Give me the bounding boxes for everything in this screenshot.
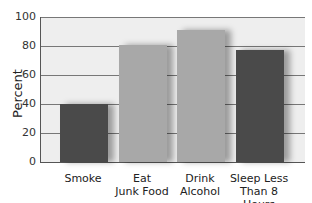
bar-chart: Percent 020406080100 SmokeEatJunk FoodDr… — [0, 0, 312, 203]
x-tick-label: Sleep LessThan 8 Hours — [224, 172, 294, 203]
bar-eat-junk-food — [119, 45, 167, 162]
gridline — [41, 46, 305, 47]
y-tick-label: 80 — [14, 39, 36, 52]
bar-sleep-less-than-8-hours — [236, 50, 284, 162]
x-tick-label-line: Sleep Less — [224, 172, 294, 185]
y-tick-label: 100 — [14, 10, 36, 23]
y-tick-label: 20 — [14, 126, 36, 139]
gridline — [41, 17, 305, 18]
plot-area — [40, 17, 305, 163]
y-tick-label: 40 — [14, 97, 36, 110]
x-tick-label-line: Than 8 Hours — [224, 185, 294, 203]
bar-smoke — [60, 104, 108, 162]
bar-drink-alcohol — [177, 30, 225, 162]
y-tick-label: 0 — [14, 155, 36, 168]
y-tick-label: 60 — [14, 68, 36, 81]
